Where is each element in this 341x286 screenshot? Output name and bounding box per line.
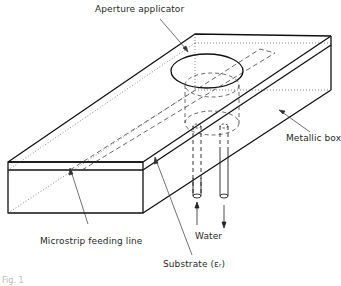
label-microstrip-feeding-line: Microstrip feeding line [40,236,143,246]
leader-lines [69,19,310,255]
label-water: Water [195,231,222,241]
box-top-back-edges [8,34,331,162]
label-metallic-box: Metallic box [286,133,341,143]
label-substrate: Substrate (εᵣ) [163,259,225,269]
water-flow-arrows [195,202,226,228]
box-right-top-edge [143,36,331,162]
hidden-box-edges [8,34,331,213]
box-outline [8,34,331,213]
label-aperture-applicator: Aperture applicator [95,4,184,14]
figure-caption: Fig. 1 [2,276,24,285]
